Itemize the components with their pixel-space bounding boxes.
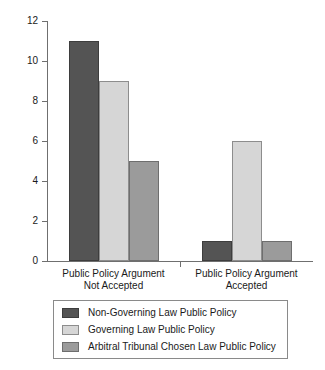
y-axis-tick-label: 6 bbox=[32, 136, 38, 146]
chart-legend: Non-Governing Law Public PolicyGoverning… bbox=[53, 300, 288, 359]
legend-swatch-icon bbox=[62, 308, 79, 318]
y-axis-tick bbox=[42, 261, 47, 262]
legend-label: Governing Law Public Policy bbox=[88, 324, 215, 335]
x-axis-category-label: Public Policy Argument Not Accepted bbox=[47, 268, 180, 292]
bar-0-1 bbox=[99, 81, 129, 261]
legend-item: Non-Governing Law Public Policy bbox=[62, 306, 236, 319]
legend-label: Non-Governing Law Public Policy bbox=[88, 307, 236, 318]
bar-1-0 bbox=[202, 241, 232, 261]
x-axis-category-label: Public Policy Argument Accepted bbox=[180, 268, 313, 292]
y-axis-tick-label: 8 bbox=[32, 96, 38, 106]
legend-label: Arbitral Tribunal Chosen Law Public Poli… bbox=[88, 341, 276, 352]
legend-swatch-icon bbox=[62, 325, 79, 335]
legend-item: Arbitral Tribunal Chosen Law Public Poli… bbox=[62, 340, 276, 353]
plot-area bbox=[47, 21, 313, 261]
bar-chart: 024681012 Public Policy Argument Not Acc… bbox=[0, 0, 325, 370]
y-axis-tick-label: 0 bbox=[32, 256, 38, 266]
y-axis-tick-label: 4 bbox=[32, 176, 38, 186]
bar-1-2 bbox=[262, 241, 292, 261]
bar-0-0 bbox=[69, 41, 99, 261]
y-axis-tick-label: 2 bbox=[32, 216, 38, 226]
bar-0-2 bbox=[129, 161, 159, 261]
bar-1-1 bbox=[232, 141, 262, 261]
x-axis-tick bbox=[180, 262, 181, 267]
legend-item: Governing Law Public Policy bbox=[62, 323, 215, 336]
y-axis-tick-label: 12 bbox=[27, 16, 38, 26]
legend-swatch-icon bbox=[62, 342, 79, 352]
y-axis-tick-label: 10 bbox=[27, 56, 38, 66]
